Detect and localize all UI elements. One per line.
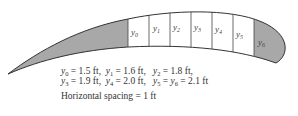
horizontal-spacing-text: Horizontal spacing = 1 ft — [61, 91, 156, 101]
measurements-line-1: y0 = 1.5 ft, y1 = 1.6 ft, y2 = 1.8 ft, — [61, 66, 193, 76]
measurements-line-2: y3 = 1.9 ft, y4 = 2.0 ft, y5 = y6 = 2.1 … — [61, 76, 208, 86]
